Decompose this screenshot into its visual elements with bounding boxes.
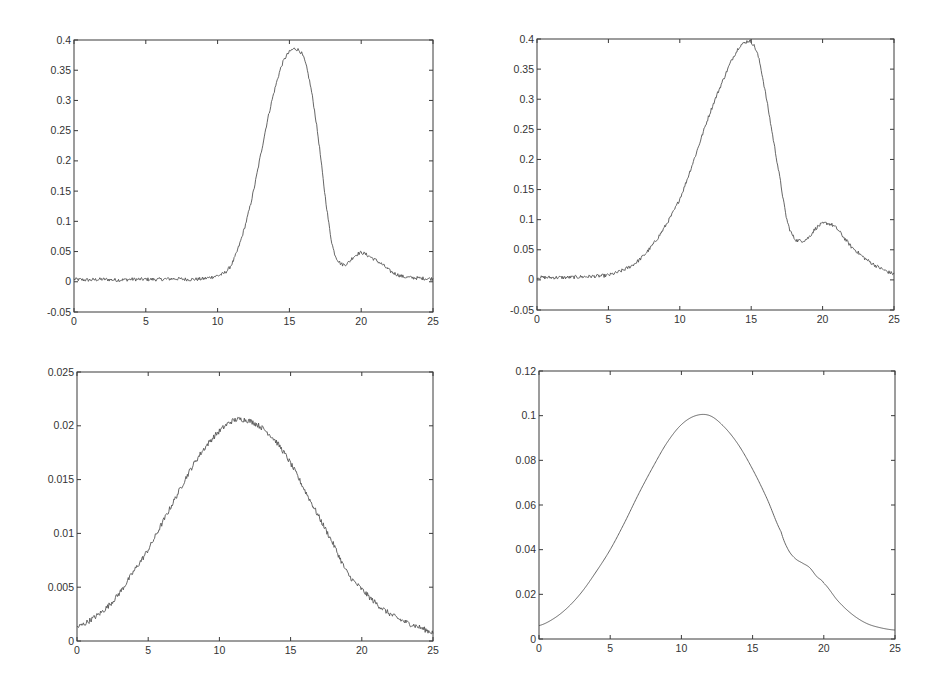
y-tick-label: -0.05	[510, 304, 534, 316]
y-tick-label: 0.35	[51, 64, 72, 76]
y-tick-label: 0.12	[516, 365, 537, 377]
x-tick-label: 20	[817, 313, 829, 325]
x-tick-label: 0	[71, 315, 77, 327]
y-tick-label: 0.06	[516, 499, 537, 511]
x-tick-label: 0	[534, 313, 540, 325]
x-tick-label: 0	[74, 644, 80, 656]
y-tick-label: 0.4	[519, 33, 534, 45]
y-tick-label: 0.35	[514, 63, 535, 75]
y-tick-label: 0.3	[519, 93, 534, 105]
y-tick-label: -0.05	[47, 306, 71, 318]
y-tick-label: 0	[65, 275, 71, 287]
x-tick-label: 20	[355, 315, 367, 327]
y-tick-label: 0.1	[56, 215, 71, 227]
axes-box	[537, 39, 894, 310]
y-tick-label: 0	[528, 273, 534, 285]
figure-canvas: 0510152025-0.0500.050.10.150.20.250.30.3…	[0, 0, 942, 676]
y-tick-label: 0.05	[514, 243, 535, 255]
axes-box	[74, 40, 433, 312]
x-tick-label: 10	[214, 644, 226, 656]
y-tick-label: 0.04	[516, 543, 537, 555]
y-tick-label: 0.025	[48, 366, 74, 378]
x-tick-label: 15	[284, 315, 296, 327]
y-tick-label: 0.1	[519, 213, 534, 225]
x-tick-label: 10	[212, 315, 224, 327]
y-tick-label: 0.02	[516, 588, 537, 600]
chart-bottom-left: 051015202500.0050.010.0150.020.025	[48, 366, 439, 657]
y-tick-label: 0.08	[516, 454, 537, 466]
series-line	[537, 40, 894, 279]
series-line	[77, 417, 433, 634]
x-tick-label: 25	[889, 642, 901, 654]
x-tick-label: 20	[818, 642, 830, 654]
y-tick-label: 0.2	[56, 154, 71, 166]
x-tick-label: 5	[607, 642, 613, 654]
y-tick-label: 0.05	[51, 245, 72, 257]
x-tick-label: 20	[356, 644, 368, 656]
y-tick-label: 0.25	[51, 124, 72, 136]
y-tick-label: 0.3	[56, 94, 71, 106]
y-tick-label: 0.005	[48, 581, 74, 593]
y-tick-label: 0.01	[54, 527, 75, 539]
x-tick-label: 15	[285, 644, 297, 656]
y-tick-label: 0.2	[519, 153, 534, 165]
y-tick-label: 0.4	[56, 34, 71, 46]
y-tick-label: 0.02	[54, 419, 75, 431]
chart-top-left: 0510152025-0.0500.050.10.150.20.250.30.3…	[47, 34, 439, 328]
y-tick-label: 0.1	[521, 409, 536, 421]
series-line	[539, 414, 895, 630]
y-tick-label: 0	[530, 633, 536, 645]
figure: 0510152025-0.0500.050.10.150.20.250.30.3…	[0, 0, 942, 676]
series-line	[74, 48, 433, 282]
axes-box	[77, 372, 433, 641]
x-tick-label: 10	[676, 642, 688, 654]
x-tick-label: 5	[143, 315, 149, 327]
x-tick-label: 10	[674, 313, 686, 325]
x-tick-label: 15	[745, 313, 757, 325]
chart-bottom-right: 051015202500.020.040.060.080.10.12	[516, 365, 901, 655]
x-tick-label: 15	[747, 642, 759, 654]
axes-box	[539, 371, 895, 639]
y-tick-label: 0	[68, 635, 74, 647]
y-tick-label: 0.15	[514, 183, 535, 195]
y-tick-label: 0.015	[48, 473, 74, 485]
y-tick-label: 0.25	[514, 123, 535, 135]
x-tick-label: 25	[888, 313, 900, 325]
chart-top-right: 0510152025-0.0500.050.10.150.20.250.30.3…	[510, 33, 900, 326]
x-tick-label: 5	[145, 644, 151, 656]
x-tick-label: 25	[427, 315, 439, 327]
y-tick-label: 0.15	[51, 185, 72, 197]
x-tick-label: 5	[605, 313, 611, 325]
x-tick-label: 0	[536, 642, 542, 654]
x-tick-label: 25	[427, 644, 439, 656]
